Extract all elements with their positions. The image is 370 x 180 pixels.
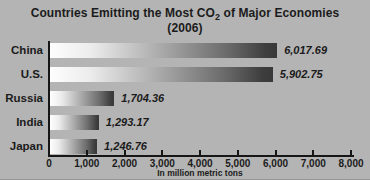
bar (50, 67, 273, 82)
value-label: 6,017.69 (284, 43, 327, 58)
bar (50, 43, 277, 58)
value-label: 1,293.17 (106, 115, 149, 130)
tick-mark (312, 150, 314, 155)
bar-row: U.S.5,902.75 (0, 67, 370, 82)
tick-label: 2,000 (112, 158, 137, 169)
tick-mark (86, 150, 88, 155)
bars-layer: China6,017.69U.S.5,902.75Russia1,704.36I… (0, 43, 370, 157)
tick-mark (199, 150, 201, 155)
value-label: 5,902.75 (280, 67, 323, 82)
bar (50, 91, 114, 106)
chart-title-line1: Countries Emitting the Most CO2 of Major… (0, 6, 370, 21)
x-axis-title: In million metric tons (157, 169, 242, 178)
value-label: 1,704.36 (121, 91, 164, 106)
chart-title-year: (2006) (0, 21, 370, 36)
chart-title-text-suffix: of Major Economies (220, 6, 339, 20)
category-label: Russia (0, 91, 43, 106)
tick-label: 0 (46, 158, 52, 169)
co2-bar-chart-figure: Countries Emitting the Most CO2 of Major… (0, 0, 370, 180)
tick-label: 7,000 (301, 158, 326, 169)
tick-mark (237, 150, 239, 155)
bar-row: Russia1,704.36 (0, 91, 370, 106)
tick-mark (161, 150, 163, 155)
chart-title: Countries Emitting the Most CO2 of Major… (0, 6, 370, 36)
tick-mark (124, 150, 126, 155)
tick-label: 1,000 (74, 158, 99, 169)
category-label: India (0, 115, 43, 130)
tick-label: 8,000 (338, 158, 363, 169)
bar-row: India1,293.17 (0, 115, 370, 130)
bar (50, 115, 99, 130)
category-label: Japan (0, 139, 43, 154)
tick-mark (350, 150, 352, 155)
category-label: China (0, 43, 43, 58)
tick-mark (275, 150, 277, 155)
tick-label: 6,000 (263, 158, 288, 169)
chart-title-text-prefix: Countries Emitting the Most CO (31, 6, 215, 20)
tick-mark (48, 150, 50, 155)
category-label: U.S. (0, 67, 43, 82)
bar-row: China6,017.69 (0, 43, 370, 58)
